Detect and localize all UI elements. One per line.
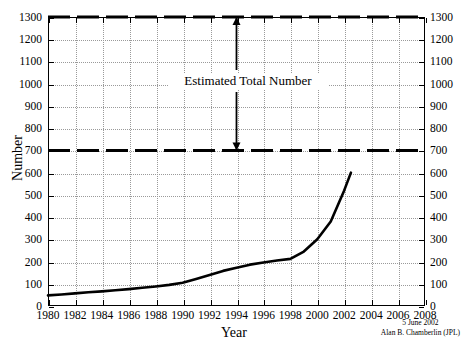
x-axis-tick-label: 2008 xyxy=(405,310,445,322)
y-axis-tick-label-right: 800 xyxy=(430,123,466,135)
y-axis-tick-label-right: 400 xyxy=(430,212,466,224)
y-axis-tick-label-right: 900 xyxy=(430,101,466,113)
y-axis-tick-label: 700 xyxy=(0,145,42,157)
estimated-total-number-annotation: Estimated Total Number xyxy=(168,73,328,89)
y-axis-tick-label: 500 xyxy=(0,190,42,202)
y-axis-tick-label: 400 xyxy=(0,212,42,224)
y-axis-tick-label: 600 xyxy=(0,168,42,180)
y-axis-tick-label-right: 600 xyxy=(430,168,466,180)
y-axis-tick-label: 300 xyxy=(0,234,42,246)
y-axis-tick-label-right: 500 xyxy=(430,190,466,202)
y-axis-tick-label: 1300 xyxy=(0,12,42,24)
y-axis-tick-label-right: 1000 xyxy=(430,79,466,91)
chart-overlay xyxy=(0,0,468,353)
y-axis-tick-label-right: 300 xyxy=(430,234,466,246)
y-axis-tick-label-right: 1100 xyxy=(430,56,466,68)
y-axis-tick-label-right: 700 xyxy=(430,145,466,157)
y-axis-tick-label: 1000 xyxy=(0,79,42,91)
y-axis-tick-label: 1200 xyxy=(0,34,42,46)
y-axis-tick-label: 800 xyxy=(0,123,42,135)
y-axis-tick-label-right: 1300 xyxy=(430,12,466,24)
data-series-line xyxy=(48,173,351,296)
y-axis-tick-label: 900 xyxy=(0,101,42,113)
y-axis-tick-label: 100 xyxy=(0,279,42,291)
y-axis-tick-label: 200 xyxy=(0,257,42,269)
chart-container: Number Year Estimated Total Number 5 Jun… xyxy=(0,0,468,353)
y-axis-tick-label: 1100 xyxy=(0,56,42,68)
y-axis-tick-label-right: 200 xyxy=(430,257,466,269)
y-axis-tick-label-right: 1200 xyxy=(430,34,466,46)
y-axis-tick-label-right: 100 xyxy=(430,279,466,291)
